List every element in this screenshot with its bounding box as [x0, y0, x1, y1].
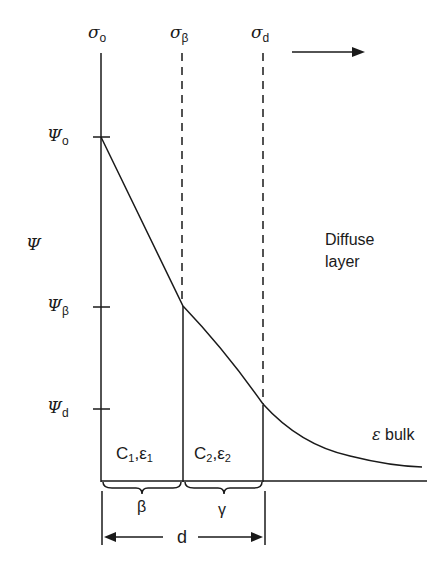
psi-d-label: Ψd	[47, 399, 69, 419]
psi-o-label: Ψo	[47, 127, 69, 147]
direction-arrowhead	[352, 47, 365, 57]
brace-beta	[103, 482, 181, 494]
psi-axis-label: Ψ	[26, 236, 41, 253]
d-arrowhead-left	[104, 532, 116, 542]
gamma-width-label: γ	[218, 502, 226, 518]
sigma-d-label: σd	[251, 24, 269, 44]
sigma-beta-label: σβ	[170, 24, 189, 44]
psi-beta-label: Ψβ	[47, 297, 69, 317]
diffuse-label-line1: Diffuse	[325, 232, 375, 248]
sigma-o-label: σo	[88, 24, 106, 44]
region-2-label: C2,ε2	[194, 445, 231, 464]
diffuse-label-line2: layer	[325, 254, 360, 270]
distance-d-label: d	[177, 528, 187, 546]
bulk-label: ε bulk	[372, 427, 414, 443]
potential-curve	[101, 137, 422, 467]
region-1-label: C1,ε1	[116, 445, 153, 464]
d-arrowhead-right	[251, 532, 263, 542]
triple-layer-diagram	[0, 0, 448, 573]
brace-gamma	[185, 482, 262, 494]
beta-width-label: β	[137, 499, 146, 515]
